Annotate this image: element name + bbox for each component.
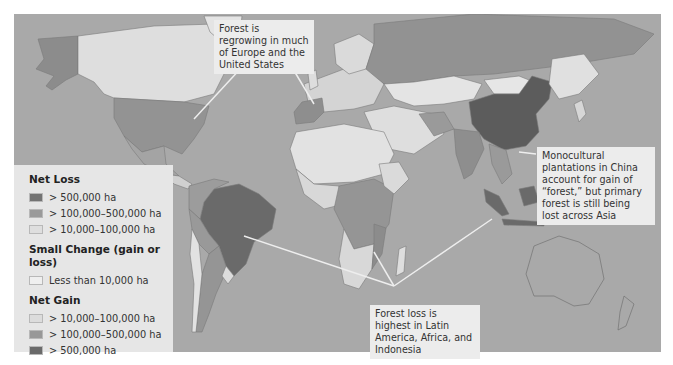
region-north-africa [290,124,394,184]
region-australia [526,236,604,306]
callout-china-asia: Monocultural plantations in China accoun… [537,147,655,225]
legend-label: > 10,000–100,000 ha [49,313,155,324]
region-new-zealand [618,296,634,330]
legend-label: > 10,000–100,000 ha [49,224,155,235]
region-usa [114,98,209,154]
region-france-spain [294,98,324,124]
callout-tropics-text: Forest loss is highest in Latin America,… [375,308,472,355]
legend-label: Less than 10,000 ha [49,275,149,286]
legend-swatch-loss-high [29,193,43,202]
legend-title-net-gain: Net Gain [29,294,173,307]
legend-title-net-loss: Net Loss [29,173,173,186]
region-canada [78,24,229,102]
legend-swatch-small-change [29,276,43,285]
legend-swatch-loss-mid [29,209,43,218]
region-indonesia-borneo [519,186,539,206]
legend-swatch-gain-low [29,314,43,323]
legend-label: > 500,000 ha [49,345,116,356]
callout-china-asia-text: Monocultural plantations in China accoun… [542,150,642,221]
legend-label: > 100,000–500,000 ha [49,208,162,219]
region-alaska [36,36,78,90]
callout-europe-us-text: Forest is regrowing in much of Europe an… [219,23,309,70]
region-se-asia [489,144,512,184]
region-madagascar [396,246,406,276]
legend-item: > 500,000 ha [29,189,173,205]
legend-item: > 100,000–500,000 ha [29,326,173,342]
region-japan [574,100,586,122]
legend-swatch-gain-mid [29,330,43,339]
callout-tropics: Forest loss is highest in Latin America,… [370,305,480,359]
legend-item: Less than 10,000 ha [29,272,173,288]
legend-swatch-loss-low [29,225,43,234]
region-mozambique [372,224,386,269]
legend-label: > 500,000 ha [49,192,116,203]
legend-item: > 100,000–500,000 ha [29,205,173,221]
legend-item: > 500,000 ha [29,342,173,358]
legend-label: > 100,000–500,000 ha [49,329,162,340]
legend-item: > 10,000–100,000 ha [29,310,173,326]
legend-title-small-change: Small Change (gain or loss) [29,243,173,269]
region-indonesia-sumatra [484,189,509,216]
map-legend: Net Loss > 500,000 ha > 100,000–500,000 … [14,165,173,352]
legend-swatch-gain-high [29,346,43,355]
region-india [454,129,484,179]
region-russia [366,14,654,84]
callout-europe-us: Forest is regrowing in much of Europe an… [214,20,314,74]
legend-item: > 10,000–100,000 ha [29,221,173,237]
